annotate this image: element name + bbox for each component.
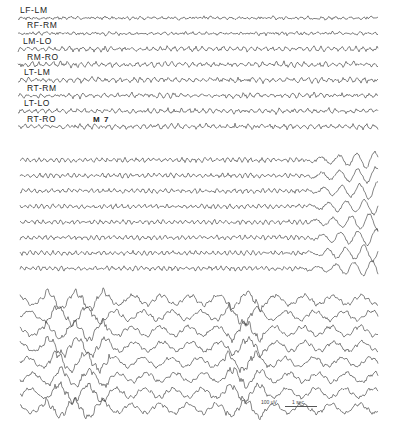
eeg-channel-trace	[20, 336, 378, 357]
channel-label: LT-LM	[24, 68, 50, 76]
channel-label: RT-RO	[27, 115, 56, 123]
eeg-channel-trace	[18, 46, 378, 53]
calibration-bar	[285, 406, 317, 407]
eeg-channel-trace	[20, 151, 378, 168]
calibration-amplitude: 100 µV	[261, 399, 277, 405]
channel-label: LT-LO	[24, 99, 50, 107]
eeg-channel-trace	[18, 61, 378, 68]
event-marker: M 7	[93, 115, 109, 124]
channel-label: LM-LO	[23, 37, 52, 45]
eeg-channel-trace	[20, 182, 378, 200]
eeg-channel-trace	[20, 245, 378, 263]
eeg-channel-trace	[20, 261, 378, 276]
eeg-traces	[0, 0, 404, 430]
channel-label: RM-RO	[27, 53, 59, 61]
channel-label: RT-RM	[27, 84, 57, 92]
eeg-channel-trace	[18, 31, 378, 36]
eeg-channel-trace	[20, 351, 378, 374]
eeg-channel-trace	[18, 16, 378, 21]
eeg-channel-trace	[20, 214, 378, 232]
eeg-channel-trace	[20, 288, 378, 312]
eeg-channel-trace	[20, 199, 378, 215]
eeg-channel-trace	[20, 167, 378, 184]
eeg-channel-trace	[18, 92, 378, 99]
calibration-time: 1 sec	[292, 399, 304, 405]
eeg-channel-trace	[18, 76, 378, 83]
eeg-channel-trace	[18, 108, 378, 115]
eeg-channel-trace	[18, 123, 378, 130]
channel-label: LF-LM	[20, 6, 48, 14]
channel-label: RF-RM	[27, 21, 57, 29]
eeg-figure: LF-LM RF-RM LM-LO RM-RO LT-LM RT-RM LT-L…	[0, 0, 404, 430]
eeg-channel-trace	[20, 228, 378, 245]
